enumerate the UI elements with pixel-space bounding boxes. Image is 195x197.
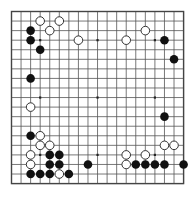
black-stone[interactable] <box>45 170 54 179</box>
black-stone[interactable] <box>45 151 54 160</box>
star-point <box>154 39 156 41</box>
star-point <box>39 154 41 156</box>
black-stone[interactable] <box>26 170 35 179</box>
black-stone[interactable] <box>26 26 35 35</box>
white-stone[interactable] <box>36 141 45 150</box>
white-stone[interactable] <box>26 103 35 112</box>
black-stone[interactable] <box>160 36 169 45</box>
star-point <box>39 96 41 98</box>
black-stone[interactable] <box>36 45 45 54</box>
white-stone[interactable] <box>122 151 131 160</box>
black-stone[interactable] <box>26 74 35 83</box>
white-stone[interactable] <box>160 141 169 150</box>
white-stone[interactable] <box>36 131 45 140</box>
white-stone[interactable] <box>74 36 83 45</box>
black-stone[interactable] <box>160 160 169 169</box>
white-stone[interactable] <box>26 160 35 169</box>
white-stone[interactable] <box>122 160 131 169</box>
white-stone[interactable] <box>55 170 64 179</box>
white-stone[interactable] <box>36 17 45 26</box>
black-stone[interactable] <box>45 160 54 169</box>
black-stone[interactable] <box>26 131 35 140</box>
black-stone[interactable] <box>55 160 64 169</box>
black-stone[interactable] <box>170 55 179 64</box>
white-stone[interactable] <box>45 26 54 35</box>
white-stone[interactable] <box>26 151 35 160</box>
white-stone[interactable] <box>55 17 64 26</box>
star-point <box>96 39 98 41</box>
black-stone[interactable] <box>55 151 64 160</box>
go-board-screenshot <box>0 0 195 197</box>
black-stone[interactable] <box>131 160 140 169</box>
black-stone[interactable] <box>160 112 169 121</box>
black-stone[interactable] <box>26 36 35 45</box>
black-stone[interactable] <box>84 160 93 169</box>
black-stone[interactable] <box>141 160 150 169</box>
black-stone[interactable] <box>179 160 188 169</box>
black-stone[interactable] <box>65 170 74 179</box>
white-stone[interactable] <box>141 151 150 160</box>
star-point <box>154 96 156 98</box>
star-point <box>154 154 156 156</box>
star-point <box>39 39 41 41</box>
white-stone[interactable] <box>45 141 54 150</box>
go-board[interactable] <box>0 0 195 197</box>
black-stone[interactable] <box>151 160 160 169</box>
go-board-canvas[interactable] <box>0 0 195 197</box>
white-stone[interactable] <box>170 141 179 150</box>
star-point <box>96 96 98 98</box>
black-stone[interactable] <box>36 170 45 179</box>
white-stone[interactable] <box>122 36 131 45</box>
star-point <box>96 154 98 156</box>
white-stone[interactable] <box>141 26 150 35</box>
